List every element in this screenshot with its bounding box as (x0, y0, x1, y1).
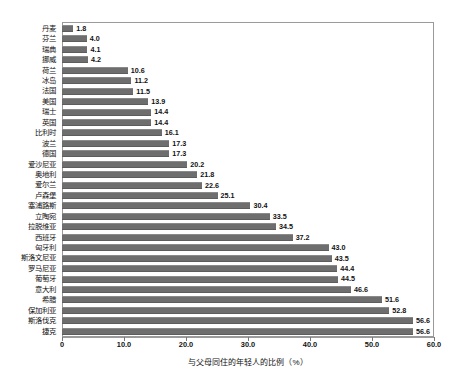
bar (62, 25, 73, 32)
bar-row: 43.0 (62, 243, 434, 252)
bar-row: 25.1 (62, 191, 434, 200)
bar-value-label: 21.8 (200, 171, 214, 178)
bar-row: 10.6 (62, 66, 434, 75)
category-label: 瑞士 (0, 108, 60, 117)
bar-row: 1.8 (62, 24, 434, 33)
bar (62, 244, 329, 251)
bar-row: 52.8 (62, 306, 434, 315)
bar (62, 171, 197, 178)
bar-row: 30.4 (62, 201, 434, 210)
bar (62, 202, 250, 209)
bar-row: 17.3 (62, 149, 434, 158)
bar-row: 14.4 (62, 108, 434, 117)
bar-row: 51.6 (62, 295, 434, 304)
bar-value-label: 14.4 (154, 119, 168, 126)
bar (62, 140, 169, 147)
bar-value-label: 10.6 (131, 67, 145, 74)
bar (62, 328, 413, 335)
bar-row: 33.5 (62, 212, 434, 221)
bar-value-label: 34.5 (279, 223, 293, 230)
category-label: 罗马尼亚 (0, 264, 60, 273)
category-label: 匈牙利 (0, 243, 60, 252)
bar-row: 34.5 (62, 222, 434, 231)
x-axis-line (62, 337, 434, 338)
bar-value-label: 13.9 (151, 98, 165, 105)
bar-value-label: 16.1 (165, 129, 179, 136)
bar-row: 37.2 (62, 233, 434, 242)
bar-row: 17.3 (62, 139, 434, 148)
category-label: 荷兰 (0, 66, 60, 75)
category-label: 立陶宛 (0, 212, 60, 221)
x-axis-tick-label: 0 (60, 341, 64, 348)
category-axis-labels: 丹麦芬兰瑞典挪威荷兰冰岛法国美国瑞士英国比利时波兰德国爱沙尼亚奥地利爱尔兰卢森堡… (0, 22, 60, 337)
category-label: 斯洛文尼亚 (0, 254, 60, 263)
x-axis-title: 与父母同住的年轻人的比例（%） (62, 356, 434, 367)
bar-value-label: 30.4 (253, 202, 267, 209)
bar-value-label: 4.0 (90, 35, 100, 42)
bar (62, 67, 128, 74)
bar (62, 161, 187, 168)
category-label: 美国 (0, 97, 60, 106)
bar-row: 44.4 (62, 264, 434, 273)
bar-value-label: 56.6 (416, 317, 430, 324)
bar (62, 192, 218, 199)
category-label: 捷克 (0, 327, 60, 336)
bar (62, 223, 276, 230)
bar-row: 16.1 (62, 128, 434, 137)
bar (62, 35, 87, 42)
bar-value-label: 44.4 (340, 265, 354, 272)
bar-value-label: 56.6 (416, 328, 430, 335)
bar (62, 119, 151, 126)
category-label: 法国 (0, 87, 60, 96)
bar-row: 43.5 (62, 254, 434, 263)
category-label: 挪威 (0, 55, 60, 64)
bar-row: 21.8 (62, 170, 434, 179)
category-label: 瑞典 (0, 45, 60, 54)
bar-series: 1.84.04.14.210.611.211.513.914.414.416.1… (62, 22, 434, 337)
x-axis-tick-label: 10.0 (117, 341, 131, 348)
bar (62, 182, 202, 189)
bar-value-label: 33.5 (273, 213, 287, 220)
bar-value-label: 20.2 (190, 161, 204, 168)
bar-row: 4.1 (62, 45, 434, 54)
bar (62, 265, 337, 272)
category-label: 意大利 (0, 285, 60, 294)
bar (62, 213, 270, 220)
bar-value-label: 4.2 (91, 56, 101, 63)
bar (62, 88, 133, 95)
bar-value-label: 52.8 (392, 307, 406, 314)
bar (62, 296, 382, 303)
bar-value-label: 17.3 (172, 150, 186, 157)
bar-row: 22.6 (62, 181, 434, 190)
bar-value-label: 22.6 (205, 182, 219, 189)
category-label: 卢森堡 (0, 191, 60, 200)
x-axis-tick-label: 20.0 (179, 341, 193, 348)
category-label: 波兰 (0, 139, 60, 148)
x-axis-tick-label: 40.0 (303, 341, 317, 348)
category-label: 塞浦路斯 (0, 201, 60, 210)
bar-row: 11.2 (62, 76, 434, 85)
category-label: 西班牙 (0, 233, 60, 242)
category-label: 丹麦 (0, 24, 60, 33)
category-label: 爱尔兰 (0, 181, 60, 190)
bar-chart: 丹麦芬兰瑞典挪威荷兰冰岛法国美国瑞士英国比利时波兰德国爱沙尼亚奥地利爱尔兰卢森堡… (0, 0, 458, 379)
bar (62, 129, 162, 136)
bar-row: 56.6 (62, 327, 434, 336)
category-label: 冰岛 (0, 76, 60, 85)
bar (62, 286, 351, 293)
bar-value-label: 4.1 (90, 46, 100, 53)
bar-value-label: 43.0 (332, 244, 346, 251)
bar-value-label: 1.8 (76, 25, 86, 32)
category-label: 奥地利 (0, 170, 60, 179)
category-label: 德国 (0, 149, 60, 158)
bar-row: 44.5 (62, 275, 434, 284)
bar-value-label: 46.6 (354, 286, 368, 293)
bar-row: 4.0 (62, 34, 434, 43)
bar-row: 13.9 (62, 97, 434, 106)
bar-value-label: 11.2 (134, 77, 148, 84)
bar (62, 77, 131, 84)
category-label: 斯洛伐克 (0, 316, 60, 325)
bar-row: 56.6 (62, 316, 434, 325)
bar (62, 150, 169, 157)
x-axis-tick-labels: 010.020.030.040.050.060.0 (0, 341, 458, 353)
